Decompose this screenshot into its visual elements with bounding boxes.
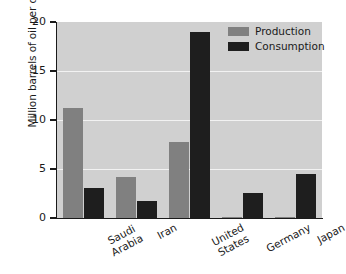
legend-label-production: Production xyxy=(255,25,311,37)
y-axis-line xyxy=(56,22,57,219)
legend-swatch-production xyxy=(228,27,249,36)
bar-consumption-united-states xyxy=(190,32,210,218)
bar-consumption-japan xyxy=(296,174,316,218)
bar-consumption-iran xyxy=(137,201,157,218)
y-tick-label: 20 xyxy=(18,16,46,27)
bar-production-united-states xyxy=(169,142,189,218)
bar-consumption-saudi-arabia xyxy=(84,188,104,218)
x-tick-label-united-states: United States xyxy=(210,222,251,259)
x-tick-label-japan: Japan xyxy=(315,222,346,246)
x-axis-line xyxy=(56,218,323,219)
y-tick-label: 10 xyxy=(18,114,46,125)
legend-item-production: Production xyxy=(228,24,325,38)
legend-item-consumption: Consumption xyxy=(228,39,325,53)
y-tick-label: 15 xyxy=(18,65,46,76)
x-tick-label-germany: Germany xyxy=(264,222,312,255)
bar-consumption-germany xyxy=(243,193,263,218)
legend-label-consumption: Consumption xyxy=(255,40,325,52)
bar-production-saudi-arabia xyxy=(63,108,83,218)
chart-legend: ProductionConsumption xyxy=(228,24,325,54)
bar-production-iran xyxy=(116,177,136,218)
y-tick-label: 0 xyxy=(18,212,46,223)
x-tick-label-saudi-arabia: Saudi Arabia xyxy=(103,222,144,258)
legend-swatch-consumption xyxy=(228,42,249,51)
y-tick-label: 5 xyxy=(18,163,46,174)
x-tick-label-iran: Iran xyxy=(155,222,179,242)
